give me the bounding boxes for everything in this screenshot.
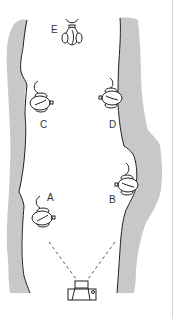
- left-bank: [7, 19, 30, 293]
- subject-c: [30, 81, 53, 112]
- right-bank: [117, 18, 162, 293]
- right-edge-rule: [172, 0, 173, 319]
- camera-icon: [68, 281, 96, 300]
- label-c: C: [40, 120, 47, 130]
- subject-b: [115, 163, 138, 195]
- label-e: E: [51, 25, 58, 35]
- label-a: A: [47, 193, 54, 203]
- label-b: B: [109, 195, 116, 205]
- sight-line-left: [49, 242, 76, 279]
- diagram-canvas: [0, 0, 174, 319]
- subject-e: [62, 19, 82, 45]
- sight-line-right: [88, 242, 115, 279]
- corridor-diagram: E C D B A: [0, 0, 174, 319]
- label-d: D: [109, 120, 116, 130]
